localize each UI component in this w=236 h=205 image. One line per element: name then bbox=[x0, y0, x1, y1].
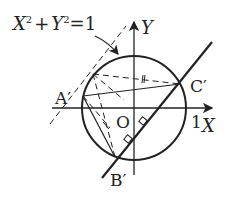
unit-circle-diagram: X2+Y2=1 Y X O 1 A′ B′ C′ bbox=[0, 0, 236, 205]
dashed-segment-top-o bbox=[93, 74, 124, 100]
tick-one-label: 1 bbox=[191, 112, 202, 132]
equation-label: X2+Y2=1 bbox=[11, 13, 96, 34]
dashed-segment-a-o bbox=[83, 96, 110, 128]
x-axis-label: X bbox=[200, 115, 216, 136]
segment-ab bbox=[83, 96, 115, 157]
point-b-label: B′ bbox=[110, 170, 126, 190]
point-a-label: A′ bbox=[54, 88, 71, 108]
segment-ac bbox=[83, 84, 180, 96]
equal-tick-1 bbox=[142, 75, 143, 83]
y-axis-label: Y bbox=[141, 17, 155, 38]
equal-tick-2 bbox=[144, 75, 145, 83]
dashed-line-a bbox=[50, 26, 126, 124]
point-c-label: C′ bbox=[190, 76, 207, 96]
dashed-segment-top-c bbox=[93, 74, 180, 84]
origin-label: O bbox=[116, 112, 130, 132]
